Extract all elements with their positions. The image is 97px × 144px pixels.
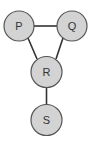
node-s: S [31,105,62,136]
node-s-label: S [43,114,50,126]
edge-q-r [56,38,63,59]
graph-diagram: P Q R S [0,0,97,144]
node-r-label: R [43,66,51,78]
node-q: Q [57,11,87,41]
edge-p-r [28,38,37,59]
node-p-label: P [15,20,22,32]
node-r: R [31,57,62,88]
node-p: P [4,11,34,41]
node-q-label: Q [68,20,77,32]
